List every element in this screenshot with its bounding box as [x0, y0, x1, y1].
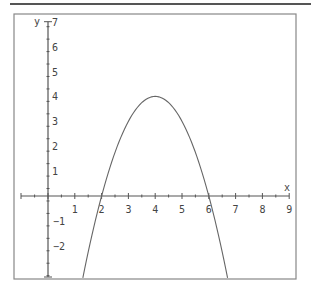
function-plot: 1234567897654321−1−2 x y — [0, 0, 311, 293]
ticks — [35, 27, 290, 276]
y-tick-label: 2 — [52, 141, 58, 152]
x-tick-label: 5 — [179, 204, 185, 215]
x-tick-label: 9 — [286, 204, 292, 215]
y-tick-label: 5 — [52, 67, 58, 78]
x-axis-label: x — [284, 182, 290, 193]
y-tick-label: 6 — [52, 42, 58, 53]
tick-labels: 1234567897654321−1−2 — [52, 17, 292, 252]
x-tick-label: 7 — [233, 204, 239, 215]
y-tick-label: 3 — [52, 116, 58, 127]
y-axis-label: y — [34, 16, 40, 27]
y-tick-label: 1 — [52, 166, 58, 177]
y-tick-label: −2 — [53, 241, 65, 252]
x-tick-label: 4 — [152, 204, 158, 215]
parabola-curve — [83, 96, 228, 278]
x-tick-label: 1 — [72, 204, 78, 215]
y-tick-label: 7 — [52, 17, 58, 28]
x-tick-label: 8 — [259, 204, 265, 215]
y-tick-label: −1 — [53, 216, 65, 227]
axes — [21, 22, 289, 277]
x-tick-label: 3 — [125, 204, 131, 215]
y-tick-label: 4 — [52, 91, 58, 102]
